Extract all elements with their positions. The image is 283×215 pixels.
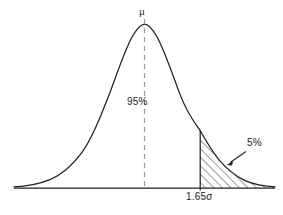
- tail-callout-arrow: [227, 152, 247, 166]
- mean-label: μ: [139, 6, 145, 17]
- cutoff-value-label: 1.65σ: [186, 192, 213, 202]
- confidence-label: 95%: [127, 97, 148, 107]
- tail-percentage-label: 5%: [247, 138, 262, 148]
- distribution-plot: [0, 0, 283, 215]
- normal-distribution-figure: μ 95% 5% 1.65σ: [0, 0, 283, 215]
